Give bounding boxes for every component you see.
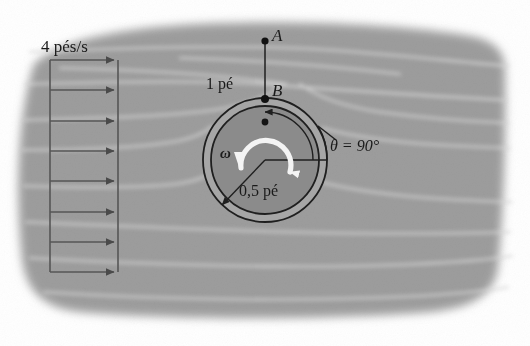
distance-ab-label: 1 pé	[206, 76, 233, 92]
point-a-label: A	[272, 27, 282, 44]
point-b-dot	[261, 95, 269, 103]
point-b-label: B	[272, 82, 282, 99]
inner-axis-dot	[262, 119, 269, 126]
flow-diagram-figure: 4 pés/s A B 1 pé 0,5 pé ω θ = 90°	[0, 0, 530, 346]
radius-label: 0,5 pé	[239, 183, 278, 199]
point-a-dot	[261, 37, 268, 44]
theta-angle-label: θ = 90°	[330, 138, 379, 154]
omega-label: ω	[220, 146, 231, 161]
free-stream-speed-label: 4 pés/s	[41, 38, 88, 55]
